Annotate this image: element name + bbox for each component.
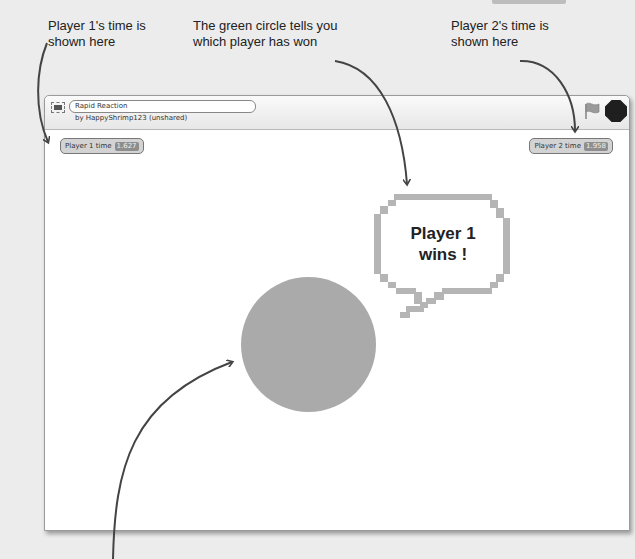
winner-circle-sprite[interactable] xyxy=(241,277,376,412)
speech-bubble: Player 1 wins ! xyxy=(370,194,520,334)
monitor-value: 1.958 xyxy=(584,142,608,151)
bubble-line: wins ! xyxy=(388,244,498,265)
annotation-line: shown here xyxy=(48,34,146,50)
annotation-line: The green circle tells you xyxy=(193,18,338,34)
stop-icon[interactable] xyxy=(605,100,627,122)
stage-window: Rapid Reaction by HappyShrimp123 (unshar… xyxy=(44,95,630,531)
fullscreen-icon[interactable] xyxy=(51,102,65,113)
annotation-winner-circle: The green circle tells you which player … xyxy=(193,18,338,50)
annotation-line: which player has won xyxy=(193,34,338,50)
player2-time-monitor: Player 2 time 1.958 xyxy=(529,138,613,154)
annotation-player1-time: Player 1's time is shown here xyxy=(48,18,146,50)
monitor-label: Player 1 time xyxy=(65,139,112,153)
monitor-label: Player 2 time xyxy=(534,139,581,153)
bubble-line: Player 1 xyxy=(388,223,498,244)
annotation-line: shown here xyxy=(451,34,549,50)
annotation-line: Player 1's time is xyxy=(48,18,146,34)
monitor-value: 1.627 xyxy=(115,142,139,151)
project-title-field[interactable]: Rapid Reaction xyxy=(69,100,256,113)
top-tab-edge xyxy=(492,0,566,4)
player1-time-monitor: Player 1 time 1.627 xyxy=(60,138,144,154)
annotation-player2-time: Player 2's time is shown here xyxy=(451,18,549,50)
green-flag-icon[interactable] xyxy=(583,101,601,121)
project-author: by HappyShrimp123 (unshared) xyxy=(75,114,187,122)
annotation-line: Player 2's time is xyxy=(451,18,549,34)
stage-title-bar: Rapid Reaction by HappyShrimp123 (unshar… xyxy=(45,96,629,130)
speech-bubble-text: Player 1 wins ! xyxy=(388,223,498,265)
